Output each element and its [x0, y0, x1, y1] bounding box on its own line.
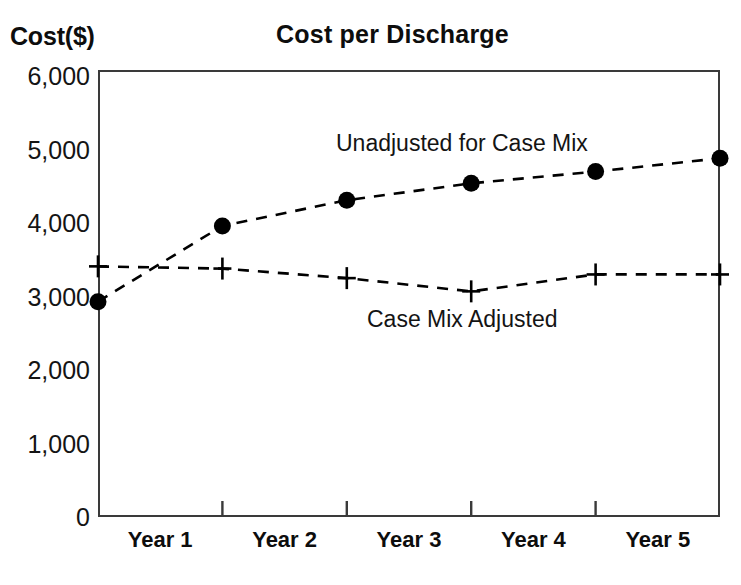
chart-title: Cost per Discharge — [22, 20, 741, 49]
y-axis-tick-label: 6,000 — [4, 62, 90, 91]
x-axis-tick-label: Year 1 — [128, 527, 193, 553]
y-axis-tick-labels: 6,0005,0004,0003,0002,0001,0000 — [0, 0, 90, 585]
x-axis-tick-label: Year 2 — [252, 527, 317, 553]
y-axis-tick-label: 4,000 — [4, 209, 90, 238]
y-axis-tick-label: 2,000 — [4, 356, 90, 385]
x-axis-tick-label: Year 4 — [501, 527, 566, 553]
y-axis-tick-label: 3,000 — [4, 282, 90, 311]
series-label-adjusted: Case Mix Adjusted — [367, 306, 557, 333]
y-axis-tick-label: 5,000 — [4, 135, 90, 164]
chart-canvas: Cost($) Cost per Discharge 6,0005,0004,0… — [0, 0, 741, 585]
x-axis-tick-label: Year 5 — [625, 527, 690, 553]
x-axis-tick-label: Year 3 — [377, 527, 442, 553]
series-label-unadjusted: Unadjusted for Case Mix — [336, 130, 588, 157]
y-axis-tick-label: 1,000 — [4, 429, 90, 458]
y-axis-tick-label: 0 — [4, 503, 90, 532]
